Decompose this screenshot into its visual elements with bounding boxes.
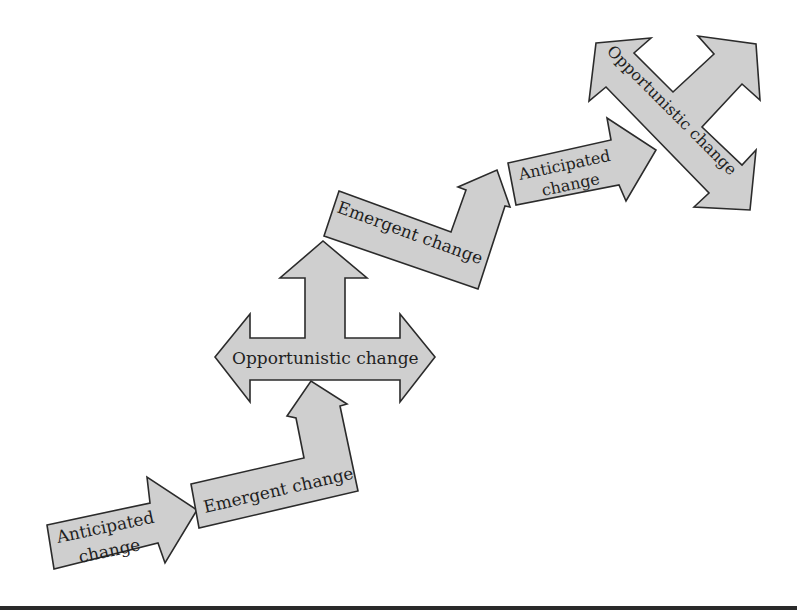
- arrow-label: Opportunistic change: [232, 348, 419, 368]
- arrow-shape: [215, 241, 435, 402]
- opportunistic-change-arrow-1: Opportunistic change: [215, 241, 435, 402]
- anticipated-change-arrow-1: Anticipated change: [47, 477, 197, 569]
- emergent-change-arrow-1: Emergent change: [191, 381, 358, 528]
- change-progression-diagram: Anticipated change Emergent change Oppor…: [0, 0, 797, 613]
- anticipated-change-arrow-2: Anticipated change: [508, 118, 656, 205]
- bottom-rule: [0, 606, 797, 610]
